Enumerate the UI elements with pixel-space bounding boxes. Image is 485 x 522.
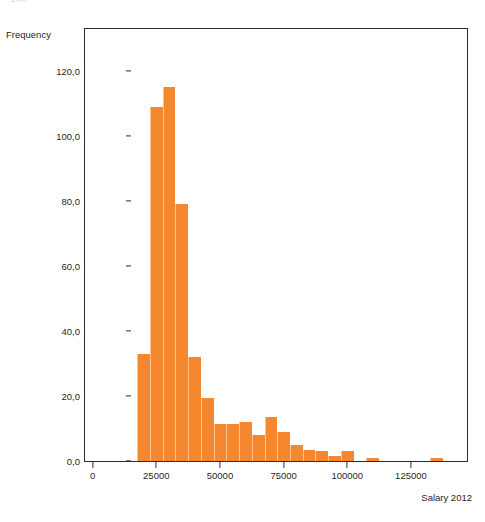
x-axis-tick-mark: [347, 462, 348, 468]
histogram-bar: [430, 458, 443, 461]
x-axis-tick-label: 125000: [395, 470, 427, 481]
y-axis-tick-label: 60,0: [62, 261, 81, 272]
histogram-bar: [175, 204, 188, 461]
x-axis-tick-label: 75000: [270, 470, 296, 481]
x-axis-tick-mark: [410, 462, 411, 468]
plot-frame: [84, 28, 468, 462]
y-axis-tick-label: 40,0: [62, 326, 81, 337]
x-axis-tick-label: 0: [90, 470, 95, 481]
histogram-bar: [265, 417, 278, 461]
histogram-bar: [214, 424, 227, 461]
y-axis-tick-label: 80,0: [62, 196, 81, 207]
histogram-bar: [252, 435, 265, 461]
histogram-bar: [303, 450, 316, 461]
histogram-bar: [188, 357, 201, 461]
y-axis-tick-mark: [126, 330, 131, 331]
histogram-bar: [150, 107, 163, 461]
y-axis-tick-label: 120,0: [56, 66, 80, 77]
histogram-bar: [239, 422, 252, 461]
x-axis-tick-label: 50000: [207, 470, 233, 481]
x-axis-title: Salary 2012: [421, 492, 472, 503]
x-axis-tick-label: 25000: [143, 470, 169, 481]
histogram-bar: [163, 87, 176, 461]
y-axis-tick-mark: [126, 136, 131, 137]
histogram-bar: [366, 458, 379, 461]
histogram-bar: [328, 456, 341, 461]
y-axis-tick-mark: [126, 395, 131, 396]
page-number-artifact: 240: [11, 0, 28, 4]
y-axis-tick-label: 0,0: [67, 456, 80, 467]
x-axis-tick-mark: [283, 462, 284, 468]
y-axis-tick-mark: [126, 460, 131, 461]
y-axis-tick-label: 20,0: [62, 391, 81, 402]
y-axis-tick-label: 100,0: [56, 131, 80, 142]
histogram-bar: [315, 451, 328, 461]
y-axis-tick-mark: [126, 201, 131, 202]
histogram-bar: [277, 432, 290, 461]
y-axis-ticks: 0,020,040,060,080,0100,0120,0: [42, 0, 80, 522]
plot-area: [85, 29, 467, 461]
x-axis-tick-mark: [156, 462, 157, 468]
x-axis-tick-mark: [92, 462, 93, 468]
y-axis-tick-mark: [126, 266, 131, 267]
x-axis-tick-label: 100000: [331, 470, 363, 481]
histogram-bar: [290, 445, 303, 461]
x-axis-tick-mark: [219, 462, 220, 468]
histogram-bar: [341, 451, 354, 461]
histogram-bar: [201, 398, 214, 461]
y-axis-tick-mark: [126, 71, 131, 72]
histogram-bar: [226, 424, 239, 461]
histogram-bar: [137, 354, 150, 461]
